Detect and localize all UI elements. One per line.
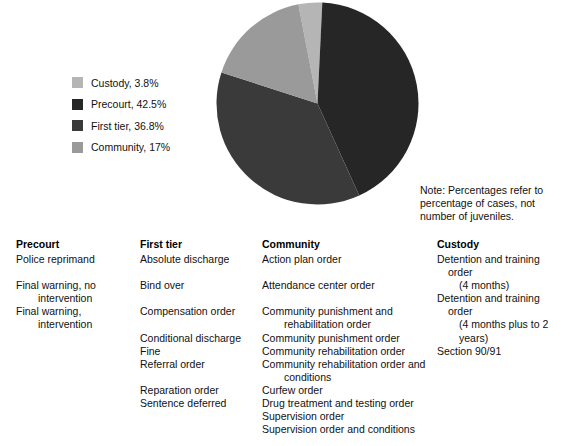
list-item-text: Detention and training order bbox=[437, 292, 540, 317]
column-heading-precourt: Precourt bbox=[16, 238, 138, 251]
pie-chart-svg bbox=[216, 2, 419, 205]
legend-label: Precourt, 42.5% bbox=[91, 98, 166, 110]
list-item-continuation: (4 months plus to 2 years) bbox=[448, 318, 567, 344]
list-item-text: Fine bbox=[140, 345, 160, 357]
list-item: Community rehabilitation order andcondit… bbox=[262, 358, 434, 384]
column-list-precourt: Police reprimandFinal warning, nointerve… bbox=[16, 253, 138, 332]
list-item: Detention and training order(4 months pl… bbox=[437, 292, 567, 344]
list-item: Sentence deferred bbox=[140, 397, 260, 410]
list-item: Supervision order bbox=[262, 410, 434, 423]
list-item-text: Reparation order bbox=[140, 384, 219, 396]
list-item-text: Community punishment and bbox=[262, 305, 393, 317]
list-item: Absolute discharge bbox=[140, 253, 260, 266]
list-item-text: Detention and training order bbox=[437, 253, 540, 278]
list-item-text: Final warning, no bbox=[16, 279, 96, 291]
list-item-text: Bind over bbox=[140, 279, 184, 291]
legend-label: Community, 17% bbox=[91, 141, 170, 153]
list-item: Drug treatment and testing order bbox=[262, 397, 434, 410]
list-item-text: Attendance center order bbox=[262, 279, 375, 291]
legend-swatch-icon bbox=[72, 77, 83, 88]
legend-item: Community, 17% bbox=[72, 137, 222, 159]
legend-item: First tier, 36.8% bbox=[72, 115, 222, 137]
column-list-community: Action plan orderAttendance center order… bbox=[262, 253, 434, 436]
list-item-text: Absolute discharge bbox=[140, 253, 229, 265]
legend-item: Precourt, 42.5% bbox=[72, 94, 222, 116]
legend-label: First tier, 36.8% bbox=[91, 120, 164, 132]
list-item-text: Supervision order and conditions bbox=[262, 423, 415, 435]
list-item: Bind over bbox=[140, 279, 260, 292]
list-item: Reparation order bbox=[140, 384, 260, 397]
list-item-text: Action plan order bbox=[262, 253, 341, 265]
list-item-text: Community rehabilitation order and bbox=[262, 358, 425, 370]
list-item-text: Community rehabilitation order bbox=[262, 345, 405, 357]
list-item: Curfew order bbox=[262, 384, 434, 397]
list-item-text: Final warning, bbox=[16, 305, 81, 317]
column-heading-custody: Custody bbox=[437, 238, 567, 251]
column-precourt: Precourt Police reprimandFinal warning, … bbox=[16, 238, 138, 332]
list-item-text: Curfew order bbox=[262, 384, 323, 396]
column-heading-first-tier: First tier bbox=[140, 238, 260, 251]
list-item-continuation: intervention bbox=[27, 318, 138, 331]
list-item: Community punishment andrehabilitation o… bbox=[262, 305, 434, 331]
list-item-continuation: (4 months) bbox=[448, 279, 567, 292]
list-item: Fine bbox=[140, 345, 260, 358]
column-list-custody: Detention and training order(4 months)De… bbox=[437, 253, 567, 358]
list-item: Compensation order bbox=[140, 305, 260, 318]
list-item: Section 90/91 bbox=[437, 345, 567, 358]
legend-item: Custody, 3.8% bbox=[72, 72, 222, 94]
list-item-text: Police reprimand bbox=[16, 253, 95, 265]
list-item: Community rehabilitation order bbox=[262, 345, 434, 358]
list-item-text: Referral order bbox=[140, 358, 205, 370]
list-item-text: Supervision order bbox=[262, 410, 344, 422]
list-item: Attendance center order bbox=[262, 279, 434, 292]
list-item: Referral order bbox=[140, 358, 260, 371]
legend-label: Custody, 3.8% bbox=[91, 77, 159, 89]
list-item-continuation: conditions bbox=[273, 371, 434, 384]
list-item: Action plan order bbox=[262, 253, 434, 266]
list-item-text: Sentence deferred bbox=[140, 397, 226, 409]
column-list-first-tier: Absolute dischargeBind overCompensation … bbox=[140, 253, 260, 410]
list-item: Supervision order and conditions bbox=[262, 423, 434, 436]
pie-legend: Custody, 3.8%Precourt, 42.5%First tier, … bbox=[72, 72, 222, 158]
list-item-text: Community punishment order bbox=[262, 332, 400, 344]
legend-swatch-icon bbox=[72, 120, 83, 131]
pie-chart bbox=[216, 2, 419, 205]
column-first-tier: First tier Absolute dischargeBind overCo… bbox=[140, 238, 260, 410]
list-item-continuation: rehabilitation order bbox=[273, 318, 434, 331]
list-item: Conditional discharge bbox=[140, 332, 260, 345]
list-item: Community punishment order bbox=[262, 332, 434, 345]
list-item-text: Drug treatment and testing order bbox=[262, 397, 414, 409]
column-heading-community: Community bbox=[262, 238, 434, 251]
legend-swatch-icon bbox=[72, 99, 83, 110]
list-item-continuation: intervention bbox=[27, 292, 138, 305]
chart-note: Note: Percentages refer to percentage of… bbox=[420, 184, 565, 223]
list-item: Detention and training order(4 months) bbox=[437, 253, 567, 292]
legend-swatch-icon bbox=[72, 142, 83, 153]
list-item: Police reprimand bbox=[16, 253, 138, 266]
list-item-text: Compensation order bbox=[140, 305, 235, 317]
list-item: Final warning, nointervention bbox=[16, 279, 138, 305]
column-community: Community Action plan orderAttendance ce… bbox=[262, 238, 434, 436]
list-item-text: Section 90/91 bbox=[437, 345, 501, 357]
list-item: Final warning,intervention bbox=[16, 305, 138, 331]
list-item-text: Conditional discharge bbox=[140, 332, 241, 344]
column-custody: Custody Detention and training order(4 m… bbox=[437, 238, 567, 358]
